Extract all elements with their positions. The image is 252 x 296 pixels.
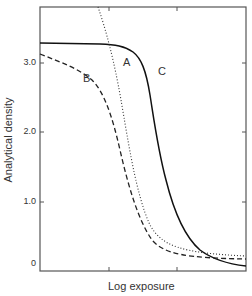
y-ticks: [40, 63, 246, 202]
curve-c: [40, 43, 246, 266]
curve-a: [98, 7, 246, 256]
plot-frame: [40, 7, 246, 271]
curve-label-b: B: [83, 72, 90, 84]
curve-label-a: A: [123, 56, 130, 68]
y-tick-label-0: 0: [12, 258, 36, 268]
plot-area: [0, 0, 252, 296]
y-tick-label-2: 2.0: [12, 126, 36, 136]
x-axis-label: Log exposure: [108, 280, 175, 292]
y-axis-label: Analytical density: [2, 98, 14, 183]
y-tick-label-1: 1.0: [12, 196, 36, 206]
chart: 0 1.0 2.0 3.0 Analytical density Log exp…: [0, 0, 252, 296]
curve-label-c: C: [158, 65, 166, 77]
curve-b: [40, 54, 246, 259]
y-tick-label-3: 3.0: [12, 57, 36, 67]
